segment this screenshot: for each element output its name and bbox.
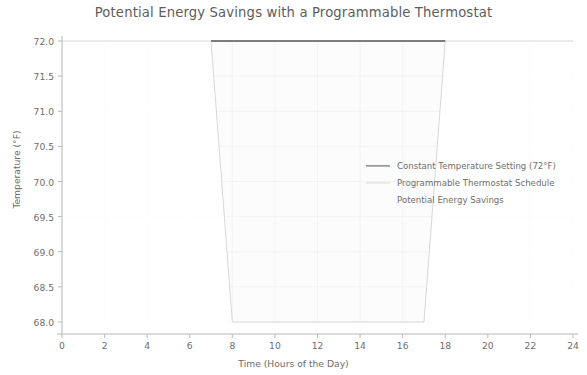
y-tick-label: 71.5: [10, 71, 54, 82]
y-axis-label-text: Temperature (°F): [11, 130, 22, 208]
x-tick-label: 8: [229, 340, 235, 351]
chart-legend: Constant Temperature Setting (72°F)Progr…: [366, 157, 556, 208]
legend-item-label: Constant Temperature Setting (72°F): [397, 161, 556, 171]
x-axis-tick-marks: [62, 334, 573, 338]
legend-item[interactable]: Programmable Thermostat Schedule: [366, 174, 556, 191]
x-tick-label: 6: [187, 340, 193, 351]
legend-item-label: Potential Energy Savings: [397, 195, 504, 205]
x-tick-label: 20: [482, 340, 494, 351]
x-tick-label: 16: [397, 340, 409, 351]
legend-line-swatch: [366, 160, 390, 171]
y-tick-label: 68.0: [10, 317, 54, 328]
y-tick-label: 69.0: [10, 246, 54, 257]
x-tick-label: 0: [59, 340, 65, 351]
y-tick-label: 72.0: [10, 36, 54, 47]
chart-figure: Potential Energy Savings with a Programm…: [0, 0, 587, 375]
x-tick-label: 12: [312, 340, 324, 351]
x-axis-label: Time (Hours of the Day): [0, 352, 587, 371]
legend-item-label: Programmable Thermostat Schedule: [397, 178, 554, 188]
legend-line-swatch: [366, 177, 390, 188]
y-axis-tick-marks: [58, 41, 62, 322]
x-tick-label: 4: [144, 340, 150, 351]
x-tick-label: 24: [567, 340, 579, 351]
x-tick-label: 14: [354, 340, 366, 351]
x-tick-label: 2: [102, 340, 108, 351]
legend-item[interactable]: Constant Temperature Setting (72°F): [366, 157, 556, 174]
x-tick-label: 18: [439, 340, 451, 351]
x-axis-label-text: Time (Hours of the Day): [238, 358, 348, 369]
legend-item[interactable]: Potential Energy Savings: [366, 191, 556, 208]
x-tick-label: 22: [525, 340, 537, 351]
x-tick-label: 10: [269, 340, 281, 351]
y-tick-label: 68.5: [10, 281, 54, 292]
y-axis-label: Temperature (°F): [5, 110, 24, 230]
legend-patch-swatch: [366, 194, 390, 205]
